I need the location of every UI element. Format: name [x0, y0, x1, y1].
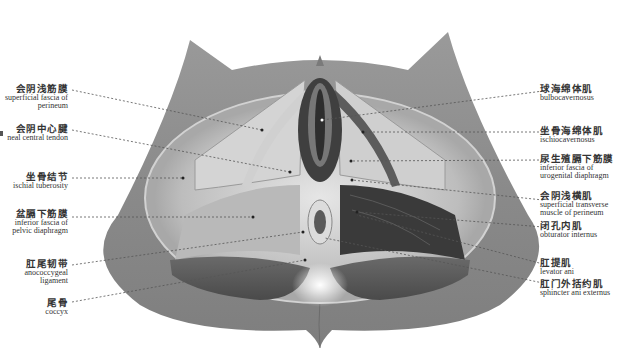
- label-sphincter-ani-externus: 肛门外括约肌 sphincter ani externus: [540, 279, 610, 297]
- label-inferior-fascia-pelvic-diaphragm: 盆膈下筋膜 inferior fascia of pelvic diaphrag…: [12, 209, 68, 236]
- label-ischiocavernosus: 坐骨海绵体肌 ischiocavernosus: [540, 126, 603, 144]
- label-levator-ani: 肛提肌 levator ani: [540, 258, 574, 276]
- label-ischial-tuberosity: 坐骨结节 ischial tuberosity: [13, 172, 68, 190]
- anatomy-figure: 会阴浅筋膜 superficial fascia of perineum 会阴中…: [0, 0, 642, 364]
- label-anococcygeal-ligament: 肛尾韧带 anococcygeal ligament: [24, 259, 68, 286]
- label-obturator-internus: 闭孔内肌 obturator internus: [540, 221, 597, 239]
- label-superficial-transverse-muscle-perineum: 会阴浅横肌 superficial transverse muscle of p…: [540, 191, 608, 218]
- perineum-illustration: [0, 0, 642, 364]
- label-coccyx: 尾骨 coccyx: [45, 298, 68, 316]
- label-bulbocavernosus: 球海绵体肌 bulbocavernosus: [540, 84, 594, 102]
- edge-marker: [0, 131, 3, 136]
- label-inferior-fascia-urogenital-diaphragm: 尿生殖膈下筋膜 inferior fascia of urogenital di…: [540, 154, 614, 181]
- label-perineal-central-tendon: 会阴中心腱 neal central tendon: [7, 124, 68, 142]
- label-superficial-fascia-perineum: 会阴浅筋膜 superficial fascia of perineum: [5, 84, 68, 111]
